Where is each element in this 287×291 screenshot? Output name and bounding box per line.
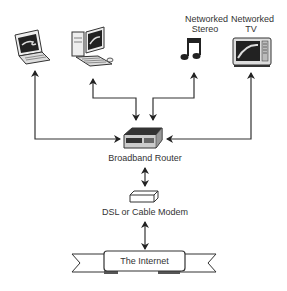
- internet-label: The Internet: [104, 256, 185, 266]
- stereo-label-line1: Networked: [185, 14, 225, 24]
- laptop-icon: [15, 30, 50, 64]
- tv-label-line2: TV: [231, 24, 271, 34]
- television-icon: [233, 38, 271, 67]
- tv-label-line1: Networked: [231, 14, 271, 24]
- router-icon: [124, 128, 162, 148]
- music-note-icon: [181, 38, 202, 60]
- router-label: Broadband Router: [100, 153, 190, 163]
- modem-label: DSL or Cable Modem: [95, 207, 195, 217]
- network-diagram: [0, 0, 287, 291]
- desktop-computer-icon: [72, 27, 113, 66]
- stereo-label-line2: Stereo: [185, 24, 225, 34]
- modem-icon: [130, 191, 158, 202]
